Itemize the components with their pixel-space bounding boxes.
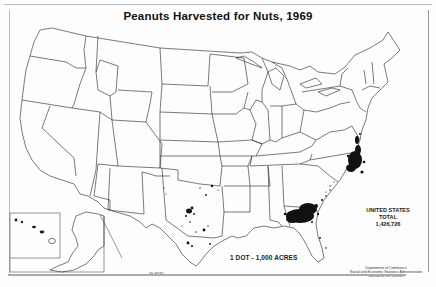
us-total-label: UNITED STATES TOTAL 1,426,726 — [352, 207, 424, 227]
dots-georgia-alabama — [284, 189, 331, 249]
alaska-inset-frame — [10, 216, 104, 272]
us-outline — [20, 28, 400, 266]
hawaii-inset-frame — [10, 213, 60, 258]
alaska-shape — [50, 212, 104, 272]
dot-scale-legend: 1 DOT - 1,000 ACRES — [230, 254, 297, 261]
source-credit: Department of Commerce Social and Econom… — [340, 266, 432, 279]
us-total-line1: UNITED STATES — [352, 207, 424, 214]
bottom-rule — [8, 274, 406, 276]
hawaii-islands — [15, 219, 56, 244]
map-page: Peanuts Harvested for Nuts, 1969 — [0, 0, 436, 287]
us-total-line2: TOTAL — [352, 214, 424, 221]
us-dot-density-map — [0, 0, 436, 287]
us-total-value: 1,426,726 — [352, 221, 424, 228]
inset-frames — [10, 213, 122, 272]
state-boundaries — [20, 28, 400, 266]
dot-clusters — [163, 133, 365, 249]
dots-south-carolina — [325, 181, 334, 192]
